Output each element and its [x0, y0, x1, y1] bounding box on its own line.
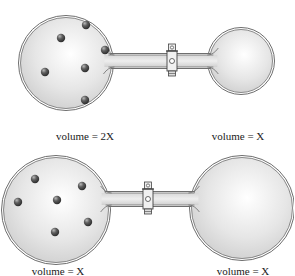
gas-particle-icon [41, 68, 49, 76]
gas-particle-icon [82, 21, 90, 29]
gas-particle-icon [51, 228, 59, 236]
gas-particle-icon [14, 198, 22, 206]
gas-particle-icon [101, 46, 109, 54]
gas-particle-icon [31, 175, 39, 183]
apparatus-top [19, 16, 275, 111]
connecting-tube [104, 55, 217, 67]
gas-particle-icon [84, 218, 92, 226]
right-bulb [192, 158, 293, 259]
stopcock-valve-icon [142, 182, 154, 214]
right-bulb [210, 30, 273, 93]
stopcock-valve-icon [166, 44, 178, 76]
apparatus-bottom [2, 156, 295, 265]
top-left-volume-label: volume = 2X [56, 130, 114, 142]
bottom-left-volume-label: volume = X [32, 265, 85, 276]
gas-particle-icon [78, 182, 86, 190]
glass-fill [21, 18, 273, 109]
left-bulb [4, 158, 109, 263]
top-right-volume-label: volume = X [212, 130, 265, 142]
bottom-right-volume-label: volume = X [217, 265, 270, 276]
gas-particle-icon [81, 96, 89, 104]
gas-particle-icon [57, 34, 65, 42]
left-bulb [21, 18, 112, 109]
gas-particle-icon [53, 196, 61, 204]
gas-particle-icon [81, 64, 89, 72]
